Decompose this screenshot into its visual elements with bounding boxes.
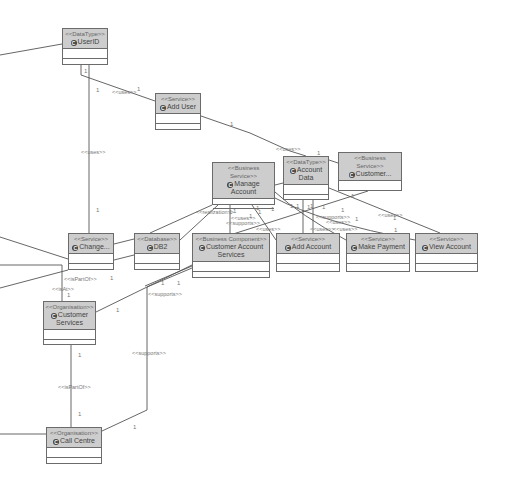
edge-label: <<uses>> [81,149,105,155]
stereotype-label: <<Business Service>> [214,164,273,180]
class-name: CDB2 [136,243,178,251]
multiplicity-label: 1 [296,203,299,209]
multiplicity-label: 1 [258,209,261,215]
multiplicity-label: 1 [393,215,396,221]
class-header: <<Business Service>> CManage Account [213,163,274,199]
class-header: <<Service>> CMake Payment [347,234,409,254]
class-icon: C [160,105,166,111]
multiplicity-label: 1 [355,216,358,222]
stereotype-label: <<Business Service>> [340,154,400,170]
multiplicity-label: 1 [177,280,180,286]
class-header: <<Service>> CView Account [416,234,477,254]
class-name: CMake Payment [348,243,408,251]
class-customer-services[interactable]: <<Organisation>> CCustomer Services [43,301,96,345]
edge-label: <<isPartOf>> [64,276,97,282]
edge-label: <<uses>> [276,146,300,152]
class-header: <<Service>> CAdd Account [277,234,339,254]
multiplicity-label: 1 [310,203,313,209]
attributes-section [193,262,269,272]
class-userid[interactable]: <<DataType>> CUserID [62,28,108,65]
stereotype-label: <<Service>> [70,235,112,243]
class-make-payment[interactable]: <<Service>> CMake Payment [346,233,410,272]
class-add-user[interactable]: <<Service>> CAdd User [155,93,201,130]
class-change[interactable]: <<Service>> CChange... [68,233,114,270]
class-call-centre[interactable]: <<Organisation>> CCall Centre [46,427,102,464]
class-icon: C [285,245,291,251]
class-header: <<Business Service>> CCustomer... [339,153,401,181]
attributes-section [339,181,401,191]
multiplicity-label: 1 [317,150,320,156]
class-account-data[interactable]: <<DataType>> CAccount Data [283,156,329,200]
class-icon: C [290,168,296,174]
operations-section [277,264,339,273]
multiplicity-label: 1 [67,292,70,298]
attributes-section [416,254,477,264]
operations-section [69,264,113,273]
stereotype-label: <<DataType>> [64,30,106,38]
stereotype-label: <<DataType>> [285,158,327,166]
multiplicity-label: 1 [96,207,99,213]
edge-label: <<supports>> [132,350,166,356]
multiplicity-label: 1 [229,209,232,215]
operations-section [347,264,409,273]
multiplicity-label: 1 [230,121,233,127]
edge-label: <<uses>> [112,89,136,95]
class-header: <<DataType>> CAccount Data [284,157,328,185]
multiplicity-label: 1 [233,208,236,214]
class-header: <<Service>> CAdd User [156,94,200,114]
class-name: CAdd Account [278,243,338,251]
class-name: CView Account [417,243,476,251]
multiplicity-label: 1 [249,213,252,219]
operations-section [416,264,477,273]
class-name: CCustomer Services [45,311,94,327]
class-name: CAdd User [157,103,199,111]
multiplicity-label: 1 [110,275,113,281]
edge-label: <<supports>> [148,291,182,297]
class-icon: C [349,172,355,178]
multiplicity-label: 1 [161,280,164,286]
class-customer[interactable]: <<Business Service>> CCustomer... [338,152,402,191]
class-icon: C [72,245,78,251]
class-icon: C [351,245,357,251]
operations-section [63,59,107,68]
edge-label: <<uses>> [326,219,350,225]
class-db2[interactable]: <<Database>> CDB2 [134,233,180,270]
attributes-section [69,254,113,264]
operations-section [156,124,200,133]
class-header: <<Database>> CDB2 [135,234,179,254]
class-name: CCustomer... [340,170,400,178]
stereotype-label: <<Service>> [157,95,199,103]
class-add-account[interactable]: <<Service>> CAdd Account [276,233,340,272]
edge-label: <<uses>> [333,226,357,232]
stereotype-label: <<Service>> [417,235,476,243]
attributes-section [47,448,101,458]
class-name: CUserID [64,38,106,46]
class-name: CManage Account [214,180,273,196]
attributes-section [156,114,200,124]
multiplicity-label: 1 [394,227,397,233]
class-name: CCustomer Account Services [194,243,268,259]
attributes-section [347,254,409,264]
class-icon: C [199,245,205,251]
multiplicity-label: 1 [116,307,119,313]
class-icon: C [422,245,428,251]
class-manage-account[interactable]: <<Business Service>> CManage Account [212,162,275,205]
operations-section [135,264,179,273]
multiplicity-label: 1 [84,68,87,74]
operations-section [193,272,269,281]
multiplicity-label: 1 [96,87,99,93]
multiplicity-label: 1 [78,411,81,417]
operations-section [47,458,101,467]
multiplicity-label: 1 [351,193,354,199]
edge-label: <<uses>> [310,226,334,232]
stereotype-label: <<Business Component>> [194,235,268,243]
edge-label: <<supports>> [226,220,260,226]
class-header: <<Organisation>> CCall Centre [47,428,101,448]
attributes-section [63,49,107,59]
class-icon: C [53,439,59,445]
class-customer-account-services[interactable]: <<Business Component>> CCustomer Account… [192,233,270,278]
class-header: <<DataType>> CUserID [63,29,107,49]
attributes-section [135,254,179,264]
class-view-account[interactable]: <<Service>> CView Account [415,233,478,272]
diagram-canvas: <<DataType>> CUserID <<Service>> CAdd Us… [0,0,506,492]
